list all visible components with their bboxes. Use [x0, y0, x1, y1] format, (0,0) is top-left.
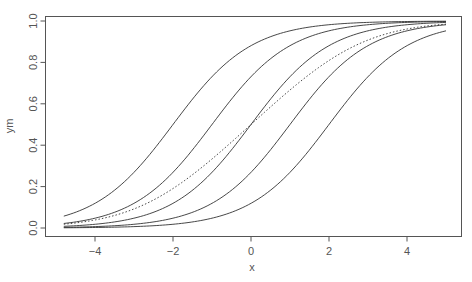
curves-group: [64, 21, 446, 228]
y-axis: 0.00.20.40.60.81.0: [27, 13, 46, 235]
y-tick-label: 0.2: [27, 179, 39, 194]
x-axis: −4−2024: [89, 237, 410, 257]
plot-box: [46, 17, 462, 237]
y-tick-label: 0.4: [27, 138, 39, 153]
x-tick-label: 2: [326, 245, 332, 257]
y-tick-label: 0.8: [27, 55, 39, 70]
y-axis-title: ym: [3, 119, 15, 134]
logistic-curve: [64, 25, 446, 228]
logistic-curve: [64, 22, 446, 224]
x-tick-label: −2: [167, 245, 180, 257]
x-axis-title: x: [249, 261, 255, 273]
y-tick-label: 1.0: [27, 13, 39, 28]
logistic-curve: [64, 31, 446, 228]
x-tick-label: −4: [89, 245, 102, 257]
logistic-curve: [64, 22, 446, 226]
x-tick-label: 0: [248, 245, 254, 257]
x-tick-label: 4: [404, 245, 410, 257]
chart: −4−2024 0.00.20.40.60.81.0 x ym: [0, 0, 472, 282]
y-tick-label: 0.0: [27, 220, 39, 235]
mean-curve: [64, 24, 446, 224]
y-tick-label: 0.6: [27, 96, 39, 111]
